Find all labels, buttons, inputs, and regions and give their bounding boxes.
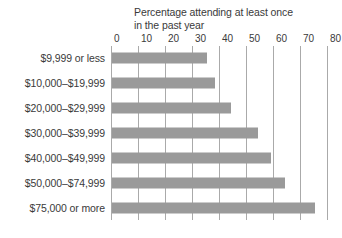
bar (112, 103, 231, 114)
category-label: $30,000–$39,999 (0, 126, 105, 139)
x-tick-label-30: 30 (195, 33, 206, 45)
category-label: $75,000 or more (0, 201, 105, 214)
chart-row: $30,000–$39,999 (0, 121, 342, 146)
chart-row: $20,000–$29,999 (0, 96, 342, 121)
chart-title: Percentage attending at least once in th… (134, 6, 339, 32)
x-tick-label-50: 50 (249, 33, 260, 45)
bar (112, 202, 315, 213)
bar (112, 152, 271, 163)
x-tick-label-0: 0 (114, 33, 120, 45)
category-label: $40,000–$49,999 (0, 151, 105, 164)
category-label: $10,000–$19,999 (0, 77, 105, 90)
x-tick-label-10: 10 (141, 33, 152, 45)
chart-row: $75,000 or more (0, 195, 342, 220)
bar (112, 78, 215, 89)
bar (112, 127, 258, 138)
chart-title-line-1: Percentage attending at least once (134, 6, 339, 19)
x-tick-label-70: 70 (303, 33, 314, 45)
x-tick-label-60: 60 (276, 33, 287, 45)
chart-row: $10,000–$19,999 (0, 71, 342, 96)
x-tick-label-40: 40 (222, 33, 233, 45)
chart-title-line-2: in the past year (134, 19, 339, 32)
category-label: $50,000–$74,999 (0, 176, 105, 189)
bar (112, 177, 285, 188)
bar (112, 53, 207, 64)
category-label: $20,000–$29,999 (0, 102, 105, 115)
x-tick-label-20: 20 (168, 33, 179, 45)
x-tick-label-80: 80 (330, 33, 341, 45)
chart-row: $9,999 or less (0, 46, 342, 71)
bar-chart: Percentage attending at least once in th… (0, 0, 342, 238)
category-label: $9,999 or less (0, 52, 105, 65)
chart-row: $50,000–$74,999 (0, 170, 342, 195)
x-axis-tick-labels: 01020304050607080 (111, 33, 341, 46)
chart-row: $40,000–$49,999 (0, 145, 342, 170)
chart-rows: $9,999 or less$10,000–$19,999$20,000–$29… (0, 46, 342, 220)
